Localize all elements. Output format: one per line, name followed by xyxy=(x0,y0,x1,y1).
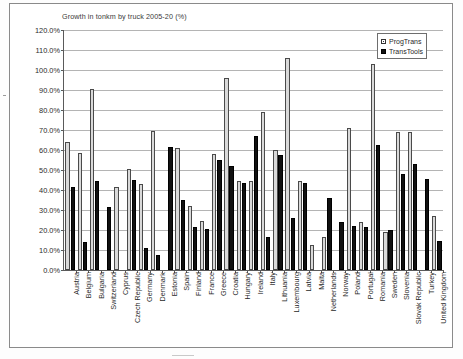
bar-group xyxy=(406,30,418,270)
y-axis-tick-label: 10.0% xyxy=(39,246,60,255)
bar-transtools xyxy=(83,242,87,270)
bar-transtools xyxy=(95,181,99,270)
bar-progtrans xyxy=(151,131,155,270)
bar-transtools xyxy=(144,248,148,270)
bar-progtrans xyxy=(322,237,326,270)
x-axis-label: Norway xyxy=(341,272,350,297)
bar-transtools xyxy=(401,174,405,270)
y-axis-tick-label: 70.0% xyxy=(39,126,60,135)
bar-group xyxy=(345,30,357,270)
legend-label-progtrans: ProgTrans xyxy=(389,38,421,45)
bar-transtools xyxy=(266,237,270,270)
x-axis-label: Sweden xyxy=(390,272,399,298)
bar-progtrans xyxy=(371,64,375,270)
x-axis-label: Hungary xyxy=(243,272,252,300)
x-axis-label: Romania xyxy=(378,272,387,301)
x-axis-label: Lithuania xyxy=(280,272,289,302)
x-axis-label: Portugal xyxy=(366,272,375,299)
bar-progtrans xyxy=(396,132,400,270)
x-axis-label: Cyprus xyxy=(121,272,130,295)
x-axis-label: Finland xyxy=(194,272,203,296)
y-axis-tick-label: 0.0% xyxy=(43,266,60,275)
chart-title: Growth in tonkm by truck 2005-20 (%) xyxy=(62,12,322,21)
x-axis-label: Italy xyxy=(268,272,277,285)
plot-area: 0.0%10.0%20.0%30.0%40.0%50.0%60.0%70.0%8… xyxy=(63,30,443,271)
y-axis-tick-label: 60.0% xyxy=(39,146,60,155)
bar-transtools xyxy=(229,166,233,270)
x-axis-label: Poland xyxy=(353,272,362,295)
bar-transtools xyxy=(437,241,441,270)
bar-progtrans xyxy=(273,150,277,270)
bar-progtrans xyxy=(347,128,351,270)
bar-transtools xyxy=(413,164,417,270)
bar-progtrans xyxy=(237,181,241,270)
bar-transtools xyxy=(254,136,258,270)
scanned-page: Growth in tonkm by truck 2005-20 (%) 0.0… xyxy=(0,0,463,359)
x-axis-label: Slovak Republic xyxy=(414,272,423,324)
bar-group xyxy=(137,30,149,270)
bar-transtools xyxy=(107,207,111,270)
bar-progtrans xyxy=(298,181,302,270)
scan-speck xyxy=(3,95,6,96)
bar-group xyxy=(284,30,296,270)
x-axis-label: Ireland xyxy=(256,272,265,294)
bar-group xyxy=(357,30,369,270)
bar-progtrans xyxy=(65,142,69,270)
x-axis-label: Bulgaria xyxy=(97,272,106,299)
bar-group xyxy=(394,30,406,270)
x-axis-label: Turkey xyxy=(427,272,436,294)
chart-frame: Growth in tonkm by truck 2005-20 (%) 0.0… xyxy=(9,3,453,348)
bar-transtools xyxy=(388,230,392,270)
bar-progtrans xyxy=(285,58,289,270)
bar-progtrans xyxy=(212,154,216,270)
bar-progtrans xyxy=(249,181,253,270)
x-axis-label: Malta xyxy=(317,272,326,290)
bar-group xyxy=(333,30,345,270)
x-axis-labels: AustriaBelgiumBulgariaSwitzerlandCyprusC… xyxy=(63,272,442,356)
bar-progtrans xyxy=(432,216,436,270)
x-axis-label: Luxembourg xyxy=(292,272,301,312)
bar-transtools xyxy=(339,222,343,270)
chart-legend: ProgTrans TransTools xyxy=(377,33,427,59)
bar-group xyxy=(76,30,88,270)
bar-group xyxy=(419,30,431,270)
bar-group xyxy=(382,30,394,270)
bar-progtrans xyxy=(127,169,131,270)
bar-transtools xyxy=(181,200,185,270)
bar-group xyxy=(321,30,333,270)
bar-transtools xyxy=(217,160,221,270)
bar-group xyxy=(125,30,137,270)
bar-progtrans xyxy=(261,112,265,270)
bar-progtrans xyxy=(310,245,314,270)
bar-transtools xyxy=(193,227,197,270)
x-axis-label: France xyxy=(207,272,216,295)
x-axis-label: United Kingdom xyxy=(439,272,448,324)
bar-group xyxy=(150,30,162,270)
bar-group xyxy=(174,30,186,270)
bar-group xyxy=(235,30,247,270)
x-axis-label: Estonia xyxy=(170,272,179,296)
y-axis-tick-label: 30.0% xyxy=(39,206,60,215)
bar-group xyxy=(296,30,308,270)
bar-group xyxy=(64,30,76,270)
bar-progtrans xyxy=(114,187,118,270)
bar-group xyxy=(88,30,100,270)
bar-group xyxy=(162,30,174,270)
bar-progtrans xyxy=(90,89,94,270)
x-axis-label: Denmark xyxy=(158,272,167,302)
legend-item-transtools: TransTools xyxy=(381,46,423,56)
bar-transtools xyxy=(242,183,246,270)
bar-transtools xyxy=(291,218,295,270)
bar-transtools xyxy=(364,227,368,270)
bar-progtrans xyxy=(200,221,204,270)
bar-group xyxy=(101,30,113,270)
bar-transtools xyxy=(156,255,160,270)
bar-group xyxy=(260,30,272,270)
bar-progtrans xyxy=(408,132,412,270)
bar-transtools xyxy=(205,229,209,270)
y-axis-tick-label: 50.0% xyxy=(39,166,60,175)
y-axis-tick xyxy=(61,270,64,271)
bar-group xyxy=(309,30,321,270)
bar-transtools xyxy=(376,145,380,270)
bar-transtools xyxy=(132,180,136,270)
